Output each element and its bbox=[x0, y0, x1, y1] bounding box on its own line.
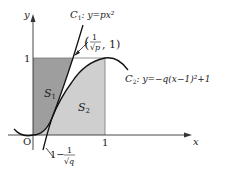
xpoint-num: 1 bbox=[67, 146, 72, 155]
y-axis-label: y bbox=[23, 9, 30, 20]
point-tail: , 1) bbox=[102, 38, 120, 51]
c2-label: C2: y=−q(x−1)²+1 bbox=[125, 73, 211, 85]
point-open-paren: ( bbox=[84, 35, 89, 51]
y-axis-arrow-icon bbox=[31, 14, 36, 22]
diagram-canvas: y x O 1 1 C1: y=px² ( 1 √p , 1) C2: y=−q… bbox=[0, 0, 229, 173]
point-num: 1 bbox=[92, 33, 97, 42]
x-tick-1: 1 bbox=[102, 137, 108, 148]
x-axis-label: x bbox=[193, 136, 199, 147]
point-den: √p bbox=[90, 43, 100, 52]
y-tick-1: 1 bbox=[24, 53, 30, 64]
c1-label: C1: y=px² bbox=[70, 9, 115, 21]
xpoint-den: √q bbox=[64, 157, 74, 166]
origin-label: O bbox=[23, 136, 31, 147]
xpoint-lead: 1− bbox=[50, 149, 65, 160]
x-axis-arrow-icon bbox=[184, 133, 192, 138]
